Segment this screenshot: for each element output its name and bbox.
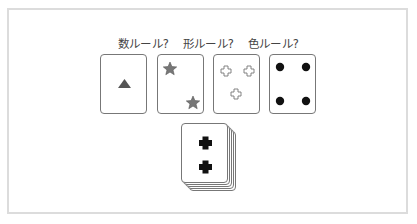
star-icon	[163, 62, 176, 75]
color-rule-label: 色ルール?	[248, 37, 299, 51]
rule-labels: 数ルール? 形ルール? 色ルール?	[0, 35, 417, 51]
circle-icon	[302, 97, 310, 105]
circle-icon	[276, 97, 284, 105]
star-icon	[186, 96, 199, 109]
deck-top-card[interactable]	[181, 123, 228, 183]
reference-card-circles[interactable]	[269, 54, 316, 114]
cross-icon	[199, 137, 212, 150]
number-rule-label: 数ルール?	[118, 37, 169, 51]
cross-icon	[231, 89, 241, 99]
reference-card-stars[interactable]	[157, 54, 204, 114]
circle-icon	[276, 63, 284, 71]
reference-card-crosses[interactable]	[213, 54, 260, 114]
triangle-icon	[118, 79, 131, 88]
cross-icon	[199, 161, 212, 174]
circle-icon	[302, 63, 310, 71]
reference-card-triangle[interactable]	[100, 54, 147, 114]
cross-icon	[244, 66, 254, 76]
cross-icon	[221, 66, 231, 76]
shape-rule-label: 形ルール?	[183, 37, 234, 51]
